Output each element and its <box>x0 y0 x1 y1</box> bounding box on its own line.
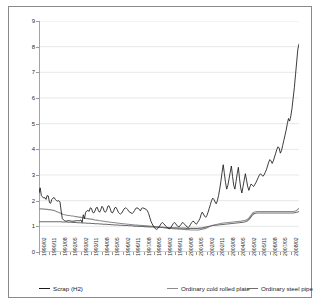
legend-line-icon <box>167 288 178 289</box>
x-axis-tick <box>144 252 145 255</box>
y-axis-tick <box>36 47 39 48</box>
y-axis-tick-label: 0 <box>13 249 35 255</box>
x-axis-tick-label: 1999/11 <box>177 238 183 256</box>
legend-item[interactable]: Scrap (H2) <box>39 285 83 292</box>
x-axis-tick <box>81 252 82 255</box>
x-axis-tick-label: 2002/02 <box>209 237 215 256</box>
x-axis-tick <box>249 252 250 255</box>
y-axis-tick <box>36 72 39 73</box>
x-axis-tick-label: 1997/08 <box>146 237 152 256</box>
x-axis-tick-label: 1996/02 <box>125 237 131 256</box>
x-axis-tick <box>291 252 292 255</box>
legend-item[interactable]: Ordinary steel pipe <box>247 285 313 292</box>
y-axis-tick-label: 9 <box>13 18 35 24</box>
y-axis-tick <box>36 98 39 99</box>
series-line <box>39 44 299 229</box>
x-axis-tick-label: 1993/02 <box>83 237 89 256</box>
x-axis-tick-label: 1995/05 <box>114 237 120 256</box>
x-axis-tick-label: 2000/08 <box>188 237 194 256</box>
x-axis-tick-label: 2002/11 <box>219 238 225 256</box>
x-axis-tick <box>270 252 271 255</box>
x-axis-tick-label: 1990/02 <box>41 237 47 256</box>
x-axis-tick-label: 1996/11 <box>135 238 141 256</box>
x-axis-tick <box>207 252 208 255</box>
legend-label: Scrap (H2) <box>53 285 83 292</box>
x-axis-tick-label: 2001/05 <box>198 237 204 256</box>
y-axis-tick-label: 6 <box>13 95 35 101</box>
y-axis-tick <box>36 149 39 150</box>
y-axis-tick-label: 2 <box>13 198 35 204</box>
x-axis-tick <box>165 252 166 255</box>
x-axis-tick-label: 2006/08 <box>272 237 278 256</box>
x-axis-tick-label: 1994/08 <box>104 237 110 256</box>
x-axis-tick-label: 1992/05 <box>72 237 78 256</box>
x-axis-tick <box>186 252 187 255</box>
legend-line-icon <box>247 288 258 289</box>
y-axis-tick-label: 5 <box>13 121 35 127</box>
x-axis-tick-label: 2005/02 <box>251 237 257 256</box>
legend-label: Ordinary cold rolled plate <box>181 285 250 292</box>
x-axis-tick <box>228 252 229 255</box>
y-axis-tick-label: 7 <box>13 69 35 75</box>
x-axis-tick-label: 2007/05 <box>282 237 288 256</box>
plot-area <box>39 21 299 252</box>
y-axis-tick-label: 8 <box>13 44 35 50</box>
y-axis-tick <box>36 124 39 125</box>
chart-legend: Scrap (H2)Ordinary cold rolled plateOrdi… <box>19 283 311 299</box>
series-line <box>39 208 299 230</box>
y-axis-tick-label: 1 <box>13 223 35 229</box>
y-axis-tick-label: 4 <box>13 146 35 152</box>
x-axis-tick <box>39 252 40 255</box>
chart-frame: Scrap (H2)Ordinary cold rolled plateOrdi… <box>8 6 312 298</box>
x-axis-tick <box>123 252 124 255</box>
x-axis-tick-label: 2008/02 <box>293 237 299 256</box>
x-axis-tick-label: 1993/11 <box>93 238 99 256</box>
x-axis-tick-label: 1990/11 <box>51 238 57 256</box>
chart-svg <box>39 21 299 252</box>
x-axis-tick-label: 2004/05 <box>240 237 246 256</box>
x-axis-tick-label: 1999/02 <box>167 237 173 256</box>
x-axis-tick-label: 2003/08 <box>230 237 236 256</box>
legend-item[interactable]: Ordinary cold rolled plate <box>167 285 250 292</box>
y-axis-tick <box>36 201 39 202</box>
x-axis-tick <box>102 252 103 255</box>
y-axis-tick <box>36 175 39 176</box>
plot-inner <box>39 21 299 252</box>
series-line <box>39 211 299 228</box>
x-axis-tick-label: 1998/05 <box>156 237 162 256</box>
x-axis-tick-label: 2005/11 <box>261 238 267 256</box>
y-axis-tick-label: 3 <box>13 172 35 178</box>
x-axis-tick <box>60 252 61 255</box>
y-axis-tick <box>36 21 39 22</box>
y-axis-tick <box>36 226 39 227</box>
legend-label: Ordinary steel pipe <box>261 285 313 292</box>
legend-line-icon <box>39 288 50 289</box>
x-axis-tick-label: 1991/08 <box>62 237 68 256</box>
